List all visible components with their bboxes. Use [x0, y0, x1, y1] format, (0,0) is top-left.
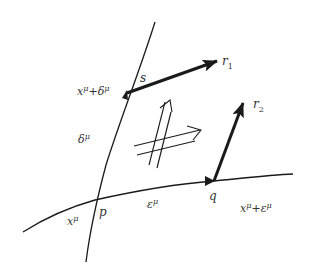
label-r2: r2 — [253, 97, 264, 114]
label-r1: r1 — [222, 54, 233, 71]
label-coord-q: xμ+εμ — [240, 201, 272, 215]
parallel-transport-icon — [134, 100, 201, 168]
curve-epsilon-arrowhead-icon — [205, 176, 215, 186]
label-epsilon: εμ — [147, 197, 158, 211]
vector-r2 — [214, 103, 243, 181]
label-coord-s: xμ+δμ — [77, 84, 109, 98]
label-q: q — [209, 189, 217, 203]
label-s: s — [140, 71, 146, 85]
diagram-figure: s p q r1 r2 xμ+δμ δμ xμ εμ xμ+εμ — [0, 0, 310, 275]
label-coord-p: xμ — [67, 214, 78, 228]
curve-delta — [86, 22, 155, 262]
label-delta: δμ — [78, 132, 90, 146]
label-p: p — [99, 205, 107, 219]
